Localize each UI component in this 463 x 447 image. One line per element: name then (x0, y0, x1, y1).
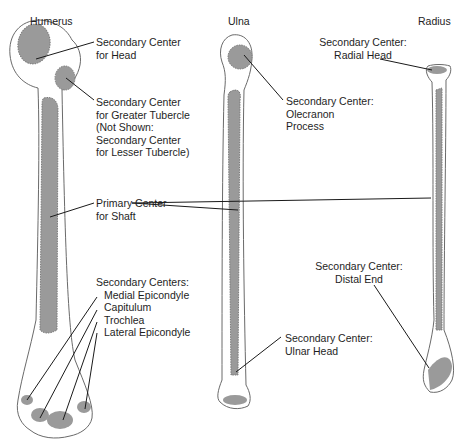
label-humerus-distal: Secondary Centers: Medial Epicondyle Cap… (96, 276, 190, 339)
label-primary-shaft: Primary Center for Shaft (96, 197, 167, 222)
ulna-bone (218, 35, 252, 409)
radius-bone (423, 65, 453, 393)
label-olecranon: Secondary Center: Olecranon Process (286, 95, 374, 133)
radius-title: Radius (418, 15, 451, 27)
bone-diagram (0, 0, 463, 447)
ulna-title: Ulna (228, 15, 250, 27)
label-humerus-head: Secondary Center for Head (96, 36, 181, 61)
label-radius-distal: Secondary Center: Distal End (304, 260, 414, 285)
label-greater-tubercle: Secondary Center for Greater Tubercle (N… (96, 96, 190, 159)
label-radial-head: Secondary Center: Radial Head (308, 36, 418, 61)
label-ulnar-head: Secondary Center: Ulnar Head (285, 332, 373, 357)
humerus-title: Humerus (30, 15, 73, 27)
humerus-bone (10, 20, 92, 438)
